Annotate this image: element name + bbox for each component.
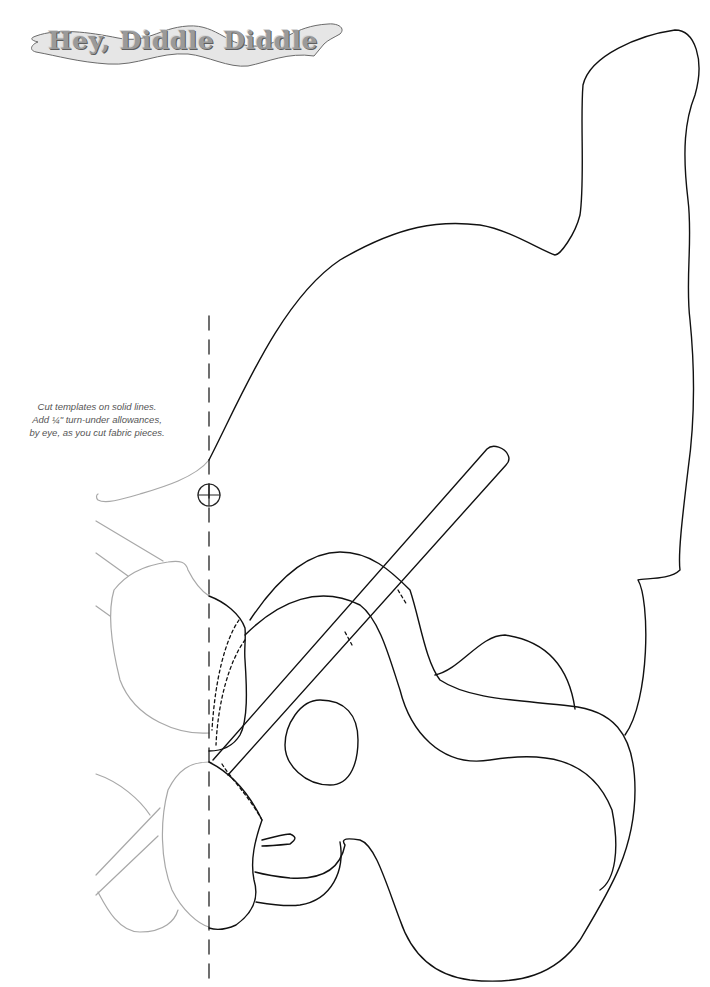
registration-crosshair-icon	[198, 484, 220, 506]
fiddle-chinrest-piece	[262, 834, 295, 846]
pattern-page: Hey, Diddle Diddle Cut templates on soli…	[0, 0, 710, 987]
fiddle-sound-hole	[285, 700, 358, 785]
mirror-guide-lines	[96, 460, 209, 932]
cat-paw-lower-piece	[209, 762, 262, 929]
cat-body-piece	[209, 30, 699, 735]
pattern-drawing	[0, 0, 710, 987]
fiddle-bow-piece	[213, 446, 509, 775]
fiddle-body-piece	[250, 552, 635, 981]
hidden-overlap-lines	[212, 590, 407, 820]
fiddle-upper-bout	[435, 635, 575, 709]
fiddle-inner-outline	[245, 596, 616, 890]
